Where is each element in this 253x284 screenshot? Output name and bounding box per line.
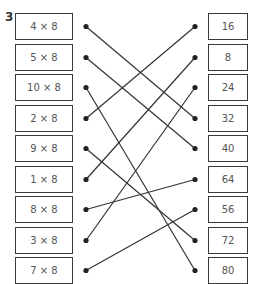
connection-dot[interactable]: [83, 177, 88, 182]
connection-dot[interactable]: [192, 55, 197, 60]
connection-dot[interactable]: [192, 177, 197, 182]
connection-dot[interactable]: [83, 24, 88, 29]
connection-line: [86, 210, 195, 271]
connection-dot[interactable]: [83, 268, 88, 273]
connection-line: [86, 58, 195, 180]
connection-dot[interactable]: [192, 24, 197, 29]
connection-dot[interactable]: [192, 85, 197, 90]
connection-line: [86, 58, 195, 149]
connection-dot[interactable]: [192, 116, 197, 121]
connection-dot[interactable]: [192, 238, 197, 243]
connection-dot[interactable]: [83, 207, 88, 212]
connection-dot[interactable]: [83, 55, 88, 60]
connection-dot[interactable]: [192, 146, 197, 151]
connection-dot[interactable]: [192, 207, 197, 212]
connection-dot[interactable]: [83, 85, 88, 90]
connection-dot[interactable]: [83, 238, 88, 243]
connection-dot[interactable]: [83, 146, 88, 151]
connection-line: [86, 88, 195, 241]
connection-dot[interactable]: [192, 268, 197, 273]
connection-line: [86, 88, 195, 271]
connection-lines: [86, 27, 195, 271]
connection-line: [86, 180, 195, 210]
connection-dots: [83, 24, 197, 273]
connection-dot[interactable]: [83, 116, 88, 121]
